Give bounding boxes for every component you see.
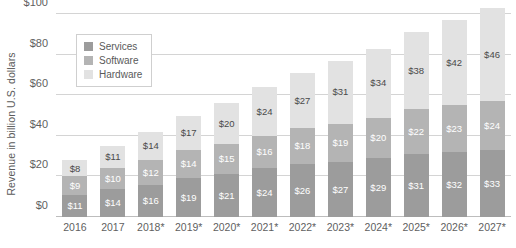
bar-segment-services[interactable]: $24: [252, 168, 277, 217]
x-axis-ticks: 201620172018*2019*2020*2021*2022*2023*20…: [56, 221, 511, 243]
bar-segment-services[interactable]: $19: [176, 178, 201, 217]
bar-segment-services[interactable]: $21: [214, 174, 239, 217]
bar-segment-software[interactable]: $9: [62, 176, 87, 194]
bar-segment-services[interactable]: $14: [100, 189, 125, 217]
bar-segment-software[interactable]: $10: [100, 168, 125, 188]
bar-segment-software[interactable]: $18: [290, 128, 315, 165]
bar-segment-services[interactable]: $11: [62, 195, 87, 217]
bar-group[interactable]: $27$18$26: [290, 73, 315, 217]
legend-item[interactable]: Services: [84, 41, 142, 52]
bar-group[interactable]: $11$10$14: [100, 146, 125, 217]
legend-swatch-icon: [84, 56, 93, 65]
bar-segment-software[interactable]: $16: [252, 136, 277, 168]
bar-segment-services[interactable]: $16: [138, 185, 163, 217]
bar-segment-software[interactable]: $20: [366, 118, 391, 159]
bar-segment-software[interactable]: $22: [404, 109, 429, 154]
bar-segment-hardware[interactable]: $8: [62, 160, 87, 176]
y-axis-tick-label: $40: [2, 118, 48, 130]
stacked-bar-chart: Revenue in billion U.S. dollars $0$20$40…: [0, 0, 516, 248]
bar-segment-software[interactable]: $19: [328, 124, 353, 163]
bar-group[interactable]: $31$19$27: [328, 61, 353, 217]
bar-group[interactable]: $20$15$21: [214, 103, 239, 217]
bar-segment-services[interactable]: $31: [404, 154, 429, 217]
bar-segment-hardware[interactable]: $20: [214, 103, 239, 144]
bar-segment-hardware[interactable]: $27: [290, 73, 315, 128]
bar-segment-software[interactable]: $15: [214, 144, 239, 174]
legend-item[interactable]: Software: [84, 55, 142, 66]
legend-item-label: Software: [99, 55, 138, 66]
bar-segment-services[interactable]: $29: [366, 158, 391, 217]
y-axis-tick-label: $20: [2, 158, 48, 170]
bar-segment-hardware[interactable]: $38: [404, 32, 429, 109]
bar-segment-software[interactable]: $23: [442, 105, 467, 152]
bar-segment-hardware[interactable]: $31: [328, 61, 353, 124]
bar-segment-software[interactable]: $24: [480, 101, 505, 150]
bar-segment-hardware[interactable]: $46: [480, 8, 505, 101]
legend-item[interactable]: Hardware: [84, 69, 142, 80]
bar-group[interactable]: $24$16$24: [252, 87, 277, 217]
bar-segment-services[interactable]: $26: [290, 164, 315, 217]
legend-item-label: Hardware: [99, 69, 142, 80]
bar-segment-services[interactable]: $33: [480, 150, 505, 217]
bar-segment-software[interactable]: $14: [176, 150, 201, 178]
bar-segment-services[interactable]: $27: [328, 162, 353, 217]
y-axis-tick-label: $80: [2, 37, 48, 49]
bar-segment-hardware[interactable]: $24: [252, 87, 277, 136]
y-axis-tick-label: $0: [2, 199, 48, 211]
y-axis-tick-label: $60: [2, 77, 48, 89]
bar-group[interactable]: $34$20$29: [366, 49, 391, 217]
bar-group[interactable]: $46$24$33: [480, 8, 505, 217]
chart-legend: ServicesSoftwareHardware: [76, 34, 152, 87]
bar-segment-hardware[interactable]: $11: [100, 146, 125, 168]
bar-group[interactable]: $14$12$16: [138, 132, 163, 217]
legend-swatch-icon: [84, 70, 93, 79]
bar-segment-hardware[interactable]: $34: [366, 49, 391, 118]
bar-segment-software[interactable]: $12: [138, 160, 163, 184]
bar-group[interactable]: $38$22$31: [404, 32, 429, 217]
legend-item-label: Services: [99, 41, 137, 52]
bar-segment-hardware[interactable]: $14: [138, 132, 163, 160]
bar-group[interactable]: $17$14$19: [176, 116, 201, 217]
x-axis-tick-label: 2027*: [470, 221, 515, 233]
bar-segment-hardware[interactable]: $17: [176, 116, 201, 151]
bar-segment-hardware[interactable]: $42: [442, 20, 467, 105]
y-axis-tick-label: $100: [2, 0, 48, 8]
bar-group[interactable]: $8$9$11: [62, 160, 87, 217]
legend-swatch-icon: [84, 42, 93, 51]
bar-segment-services[interactable]: $32: [442, 152, 467, 217]
bar-group[interactable]: $42$23$32: [442, 20, 467, 217]
